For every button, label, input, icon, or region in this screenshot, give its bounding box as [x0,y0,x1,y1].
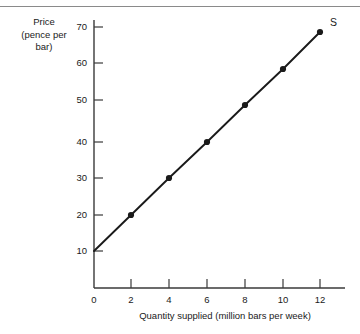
y-tick-label-40: 40 [63,136,87,147]
y-tick-label-10: 10 [63,245,87,256]
chart-figure: 70 60 50 40 30 20 10 0 2 4 6 8 10 12 Pri… [0,0,360,334]
x-axis-title: Quantity supplied (million bars per week… [100,310,350,323]
x-tick-label-2: 2 [119,294,143,305]
x-tick-label-4: 4 [157,294,181,305]
y-tick-label-50: 50 [63,94,87,105]
series-label-s: S [330,16,337,28]
y-tick-label-60: 60 [63,57,87,68]
y-tick-label-30: 30 [63,172,87,183]
x-axis-ticks [131,279,320,288]
x-tick-label-10: 10 [271,294,295,305]
x-tick-label-8: 8 [233,294,257,305]
x-tick-label-0: 0 [82,294,106,305]
y-tick-label-20: 20 [63,209,87,220]
y-axis-ticks [94,27,103,251]
x-tick-label-6: 6 [195,294,219,305]
y-axis-title: Price (pence per bar) [2,16,86,54]
x-tick-label-12: 12 [308,294,332,305]
